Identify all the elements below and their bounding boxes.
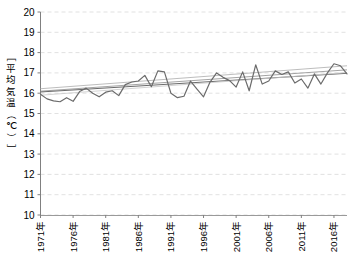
y-tick-label: 14 xyxy=(23,128,35,139)
x-tick-label: 1986年 xyxy=(133,221,144,252)
x-tick-label: 1981年 xyxy=(100,221,111,252)
y-tick-label: 16 xyxy=(23,88,35,99)
y-axis-title-char: ） xyxy=(6,133,17,143)
x-tick-label: 1971年 xyxy=(35,221,46,252)
y-tick-label: 12 xyxy=(23,169,35,180)
y-axis-title-char: ℃ xyxy=(6,120,17,131)
x-tick-label: 2016年 xyxy=(328,221,339,252)
y-tick-label: 20 xyxy=(23,7,35,18)
temperature-line-chart: 2019181716151413121110 1971年1976年1981年19… xyxy=(0,0,349,268)
y-tick-label: 11 xyxy=(24,189,35,200)
chart-container: 2019181716151413121110 1971年1976年1981年19… xyxy=(0,0,349,268)
y-axis-title-char: 温 xyxy=(6,97,16,108)
x-tick-label: 1976年 xyxy=(68,221,79,252)
x-tick-label: 2001年 xyxy=(231,221,242,252)
y-tick-label: 10 xyxy=(23,210,35,221)
y-axis-title-char: ［ xyxy=(6,52,17,62)
y-axis-title-group: ［平均気温（℃）］ xyxy=(6,52,18,154)
y-tick-label: 13 xyxy=(23,149,35,160)
x-tick-label: 1996年 xyxy=(198,221,209,252)
x-tick-label: 2006年 xyxy=(263,221,274,252)
y-axis-title-char: 均 xyxy=(6,74,16,85)
y-axis-title-char: （ xyxy=(6,110,17,120)
y-tick-label: 15 xyxy=(23,108,35,119)
y-tick-label: 18 xyxy=(23,47,35,58)
x-tick-label: 1991年 xyxy=(165,221,176,252)
y-tick-label: 17 xyxy=(23,67,35,78)
y-tick-label: 19 xyxy=(23,27,35,38)
x-tick-label: 2011年 xyxy=(296,221,307,251)
y-axis-title-char: 平 xyxy=(6,63,16,74)
y-axis-title-char: 気 xyxy=(6,86,16,97)
y-axis-title-char: ］ xyxy=(6,144,17,154)
